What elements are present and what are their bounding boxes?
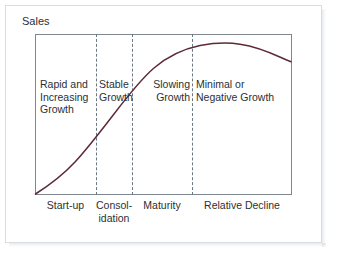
stage-description-consolidation: Stable Growth	[99, 78, 132, 103]
stage-divider-3	[192, 34, 193, 195]
stage-description-maturity: Slowing Growth	[136, 78, 190, 103]
stage-divider-2	[132, 34, 133, 195]
figure-shadow-bottom	[9, 243, 326, 247]
stage-label-relative-decline: Relative Decline	[192, 199, 292, 212]
y-axis-caption: Sales	[22, 15, 50, 27]
stage-label-consolidation: Consol- idation	[96, 199, 132, 224]
stage-description-relative-decline: Minimal or Negative Growth	[196, 78, 290, 103]
figure-container: Sales Rapid and Increasing Growth Stable…	[0, 0, 340, 256]
stage-description-start-up: Rapid and Increasing Growth	[40, 78, 94, 116]
stage-label-maturity: Maturity	[132, 199, 192, 212]
figure-shadow-right	[322, 9, 326, 247]
stage-label-start-up: Start-up	[35, 199, 96, 212]
stage-divider-1	[96, 34, 97, 195]
